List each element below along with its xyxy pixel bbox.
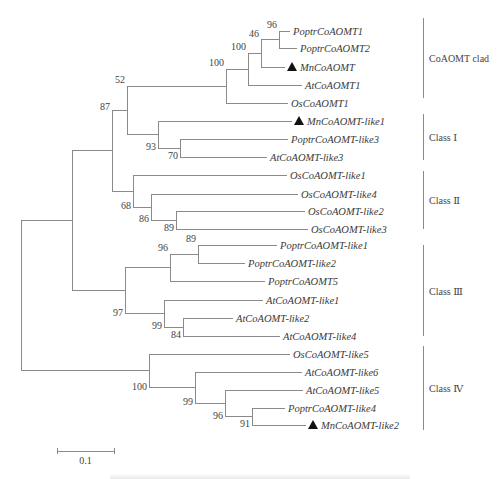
leaf-label: PoptrCoAOMT1 bbox=[292, 26, 363, 37]
leaf-label: OsCoAOMT-like4 bbox=[301, 189, 377, 200]
leaf-label: OsCoAOMT-like1 bbox=[290, 170, 366, 181]
clade-label: Class Ⅱ bbox=[429, 195, 460, 206]
leaf-label: MnCoAOMT bbox=[299, 62, 356, 73]
leaf-label: PoptrCoAOMT-like1 bbox=[279, 240, 368, 251]
bootstrap-value: 99 bbox=[152, 320, 162, 331]
clade-label: Class Ⅲ bbox=[429, 286, 463, 297]
leaf-label: AtCoAOMT-like2 bbox=[235, 313, 310, 324]
leaf-label: AtCoAOMT1 bbox=[304, 80, 360, 91]
bootstrap-value: 97 bbox=[113, 307, 123, 318]
figure-caption-cutoff bbox=[110, 474, 410, 479]
leaf-label: OsCoAOMT-like2 bbox=[308, 206, 384, 217]
leaf-label: PoptrCoAOMT2 bbox=[299, 43, 371, 54]
leaf-label: AtCoAOMT-like6 bbox=[304, 367, 379, 378]
leaf-label: OsCoAOMT-like5 bbox=[293, 349, 369, 360]
bootstrap-value: 68 bbox=[121, 200, 131, 211]
bootstrap-value: 87 bbox=[100, 101, 110, 112]
bootstrap-value: 96 bbox=[267, 19, 277, 30]
leaf-label: OsCoAOMT-like3 bbox=[311, 224, 387, 235]
leaf-label: PoptrCoAOMT5 bbox=[267, 276, 338, 287]
leaf-label: AtCoAOMT-like3 bbox=[269, 152, 343, 163]
bootstrap-value: 99 bbox=[183, 396, 193, 407]
bootstrap-value: 93 bbox=[146, 141, 156, 152]
scale-bar-label: 0.1 bbox=[79, 455, 92, 466]
bootstrap-value: 96 bbox=[213, 410, 223, 421]
leaf-label: AtCoAOMT-like5 bbox=[305, 385, 379, 396]
clade-label: CoAOMT clad bbox=[429, 53, 489, 64]
triangle-marker-icon bbox=[294, 116, 304, 125]
clade-label: Class Ⅳ bbox=[429, 383, 464, 394]
bootstrap-values: 9646100100709352898668878996849997919699… bbox=[100, 19, 277, 429]
bootstrap-value: 89 bbox=[164, 222, 174, 233]
bootstrap-value: 84 bbox=[171, 329, 181, 340]
bootstrap-value: 100 bbox=[132, 381, 147, 392]
leaf-label: MnCoAOMT-like2 bbox=[320, 420, 400, 431]
leaf-label: MnCoAOMT-like1 bbox=[306, 116, 385, 127]
leaf-labels: PoptrCoAOMT1PoptrCoAOMT2MnCoAOMTAtCoAOMT… bbox=[235, 26, 400, 431]
triangle-marker-icon bbox=[308, 420, 318, 429]
bootstrap-value: 96 bbox=[158, 242, 168, 253]
leaf-label: PoptrCoAOMT-like4 bbox=[287, 403, 377, 414]
clade-brackets: CoAOMT cladClass ⅠClass ⅡClass ⅢClass Ⅳ bbox=[423, 18, 489, 430]
scale-bar: 0.1 bbox=[57, 448, 114, 466]
bootstrap-value: 100 bbox=[209, 57, 224, 68]
bootstrap-value: 100 bbox=[231, 41, 246, 52]
leaf-label: OsCoAOMT1 bbox=[291, 98, 349, 109]
bootstrap-value: 91 bbox=[240, 418, 250, 429]
leaf-label: PoptrCoAOMT-like3 bbox=[290, 134, 379, 145]
phylogenetic-tree: PoptrCoAOMT1PoptrCoAOMT2MnCoAOMTAtCoAOMT… bbox=[0, 0, 498, 479]
bootstrap-value: 89 bbox=[186, 233, 196, 244]
leaf-label: AtCoAOMT-like1 bbox=[265, 295, 339, 306]
clade-label: Class Ⅰ bbox=[429, 132, 457, 143]
triangle-marker-icon bbox=[287, 62, 297, 71]
bootstrap-value: 86 bbox=[139, 213, 149, 224]
leaf-label: AtCoAOMT-like4 bbox=[282, 331, 357, 342]
bootstrap-value: 46 bbox=[249, 28, 259, 39]
bootstrap-value: 70 bbox=[168, 150, 178, 161]
leaf-label: PoptrCoAOMT-like2 bbox=[247, 258, 337, 269]
bootstrap-value: 52 bbox=[115, 74, 125, 85]
